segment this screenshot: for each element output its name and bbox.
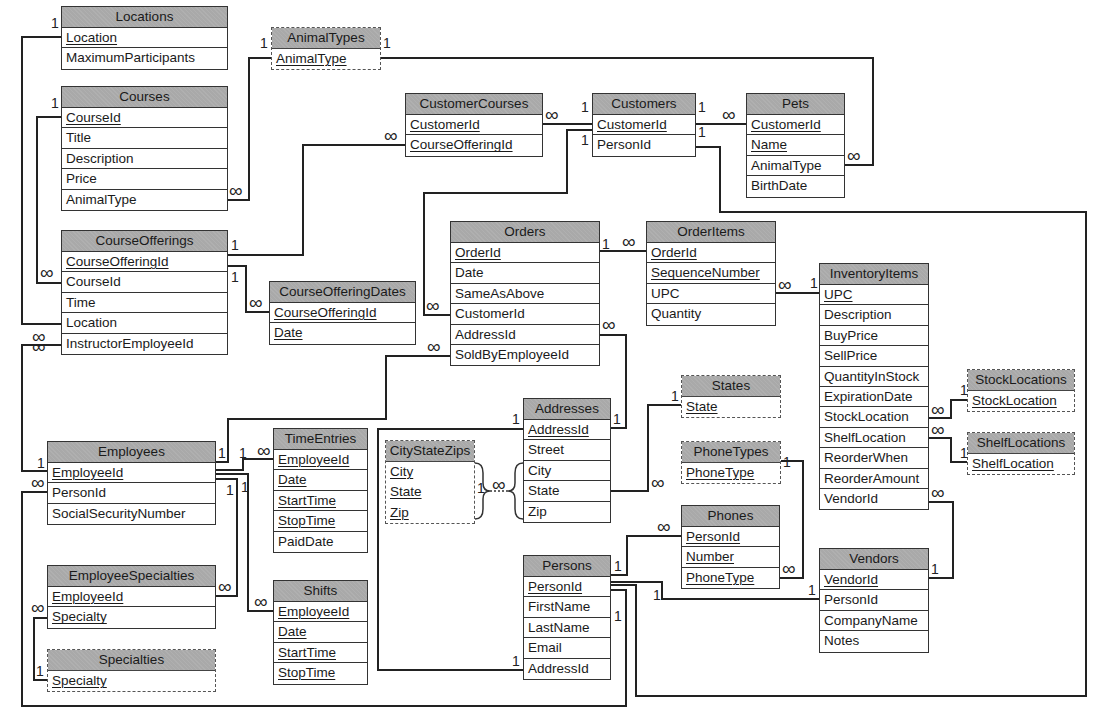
table-field: StockLocation xyxy=(820,407,928,427)
table-employees[interactable]: EmployeesEmployeeIdPersonIdSocialSecurit… xyxy=(47,441,216,525)
table-field: CustomerId xyxy=(451,304,599,324)
primary-key-field: EmployeeId xyxy=(274,450,367,470)
table-orderitems[interactable]: OrderItemsOrderIdSequenceNumberUPCQuanti… xyxy=(646,221,776,326)
table-header: Persons xyxy=(524,556,610,577)
table-citystatezips[interactable]: CityStateZipsCityStateZip xyxy=(385,440,475,524)
field-name: AnimalType xyxy=(66,192,137,207)
table-customercourses[interactable]: CustomerCoursesCustomerIdCourseOfferingI… xyxy=(405,93,543,157)
table-header: Specialties xyxy=(48,650,215,671)
table-header: EmployeeSpecialties xyxy=(48,566,215,587)
cardinality-one-label: 1 xyxy=(218,446,226,460)
cardinality-one-label: 1 xyxy=(960,446,968,460)
cardinality-many-label: ∞ xyxy=(31,476,45,490)
cardinality-many-label: ∞ xyxy=(426,299,440,313)
table-field: Price xyxy=(62,169,227,189)
table-field: State xyxy=(524,481,610,501)
table-field: VendorId xyxy=(820,489,928,509)
primary-key-field: City xyxy=(386,462,474,482)
table-courseofferings[interactable]: CourseOfferingsCourseOfferingIdCourseIdT… xyxy=(61,230,228,355)
table-field: PersonId xyxy=(593,135,695,155)
field-name: City xyxy=(528,463,551,478)
table-inventoryitems[interactable]: InventoryItemsUPCDescriptionBuyPriceSell… xyxy=(819,263,929,510)
table-header: Vendors xyxy=(820,549,928,570)
table-stocklocations[interactable]: StockLocationsStockLocation xyxy=(967,369,1075,412)
table-specialties[interactable]: SpecialtiesSpecialty xyxy=(47,649,216,692)
table-timeentries[interactable]: TimeEntriesEmployeeIdDateStartTimeStopTi… xyxy=(273,428,368,553)
primary-key-field: OrderId xyxy=(647,243,775,263)
cardinality-one-label: 1 xyxy=(231,238,239,252)
field-name: Price xyxy=(66,171,97,186)
cardinality-one-label: 1 xyxy=(808,583,816,597)
cardinality-many-label: ∞ xyxy=(778,278,792,292)
cardinality-many-label: ∞ xyxy=(229,184,243,198)
field-name: CourseId xyxy=(66,110,121,125)
field-name: State xyxy=(390,484,422,499)
field-name: SoldByEmployeeId xyxy=(455,347,569,362)
primary-key-field: VendorId xyxy=(820,570,928,590)
field-name: ReorderWhen xyxy=(824,450,908,465)
primary-key-field: StopTime xyxy=(274,663,367,683)
primary-key-field: AddressId xyxy=(524,420,610,440)
field-name: Specialty xyxy=(52,673,107,688)
field-name: CustomerId xyxy=(751,117,821,132)
primary-key-field: StopTime xyxy=(274,511,367,531)
field-name: Date xyxy=(455,265,484,280)
table-states[interactable]: StatesState xyxy=(681,375,781,418)
field-name: State xyxy=(686,399,718,414)
field-name: QuantityInStock xyxy=(824,369,919,384)
table-employeespecialties[interactable]: EmployeeSpecialtiesEmployeeIdSpecialty xyxy=(47,565,216,629)
field-name: CompanyName xyxy=(824,613,918,628)
table-orders[interactable]: OrdersOrderIdDateSameAsAboveCustomerIdAd… xyxy=(450,221,600,366)
table-shifts[interactable]: ShiftsEmployeeIdDateStartTimeStopTime xyxy=(273,580,368,685)
field-name: Title xyxy=(66,130,91,145)
field-name: PaidDate xyxy=(278,534,334,549)
cardinality-many-label: ∞ xyxy=(657,520,671,534)
table-field: Time xyxy=(62,293,227,313)
cardinality-one-label: 1 xyxy=(810,276,818,290)
cardinality-many-label: ∞ xyxy=(384,129,398,143)
table-phonetypes[interactable]: PhoneTypesPhoneType xyxy=(681,441,781,484)
table-shelflocations[interactable]: ShelfLocationsShelfLocation xyxy=(967,432,1075,475)
cardinality-many-label: ∞ xyxy=(931,486,945,500)
table-vendors[interactable]: VendorsVendorIdPersonIdCompanyNameNotes xyxy=(819,548,929,653)
table-phones[interactable]: PhonesPersonIdNumberPhoneType xyxy=(681,505,780,589)
primary-key-field: CustomerId xyxy=(593,115,695,135)
table-field: Email xyxy=(524,638,610,658)
field-name: AnimalType xyxy=(751,158,822,173)
table-courseofferingdates[interactable]: CourseOfferingDatesCourseOfferingIdDate xyxy=(269,281,416,345)
table-field: UPC xyxy=(647,284,775,304)
field-name: Name xyxy=(751,137,787,152)
field-name: State xyxy=(528,483,560,498)
table-header: CourseOfferings xyxy=(62,231,227,252)
field-name: CustomerId xyxy=(410,117,480,132)
cardinality-many-label: ∞ xyxy=(722,108,736,122)
field-name: Street xyxy=(528,442,564,457)
primary-key-field: StartTime xyxy=(274,491,367,511)
cardinality-one-label: 1 xyxy=(581,133,589,147)
cardinality-one-label: 1 xyxy=(698,100,706,114)
table-customers[interactable]: CustomersCustomerIdPersonId xyxy=(592,93,696,157)
table-persons[interactable]: PersonsPersonIdFirstNameLastNameEmailAdd… xyxy=(523,555,611,680)
field-name: Date xyxy=(278,472,307,487)
primary-key-field: CourseId xyxy=(62,108,227,128)
table-locations[interactable]: LocationsLocationMaximumParticipants xyxy=(61,6,228,70)
field-name: Email xyxy=(528,640,562,655)
cardinality-one-label: 1 xyxy=(698,125,706,139)
table-field: AddressId xyxy=(451,325,599,345)
cardinality-many-label: ∞ xyxy=(427,340,441,354)
cardinality-one-label: 1 xyxy=(260,36,268,50)
field-name: AddressId xyxy=(528,661,589,676)
cardinality-one-label: 1 xyxy=(783,455,791,469)
table-pets[interactable]: PetsCustomerIdNameAnimalTypeBirthDate xyxy=(746,93,845,198)
field-name: StopTime xyxy=(278,665,335,680)
table-field: CompanyName xyxy=(820,611,928,631)
field-name: ShelfLocation xyxy=(824,430,906,445)
table-animaltypes[interactable]: AnimalTypesAnimalType xyxy=(271,27,381,70)
table-field: AnimalType xyxy=(747,156,844,176)
table-field: AnimalType xyxy=(62,190,227,210)
cardinality-many-label: ∞ xyxy=(931,423,945,437)
cardinality-one-label: 1 xyxy=(383,36,391,50)
field-name: AddressId xyxy=(528,422,589,437)
table-courses[interactable]: CoursesCourseIdTitleDescriptionPriceAnim… xyxy=(61,86,228,211)
table-addresses[interactable]: AddressesAddressIdStreetCityStateZip xyxy=(523,398,611,523)
